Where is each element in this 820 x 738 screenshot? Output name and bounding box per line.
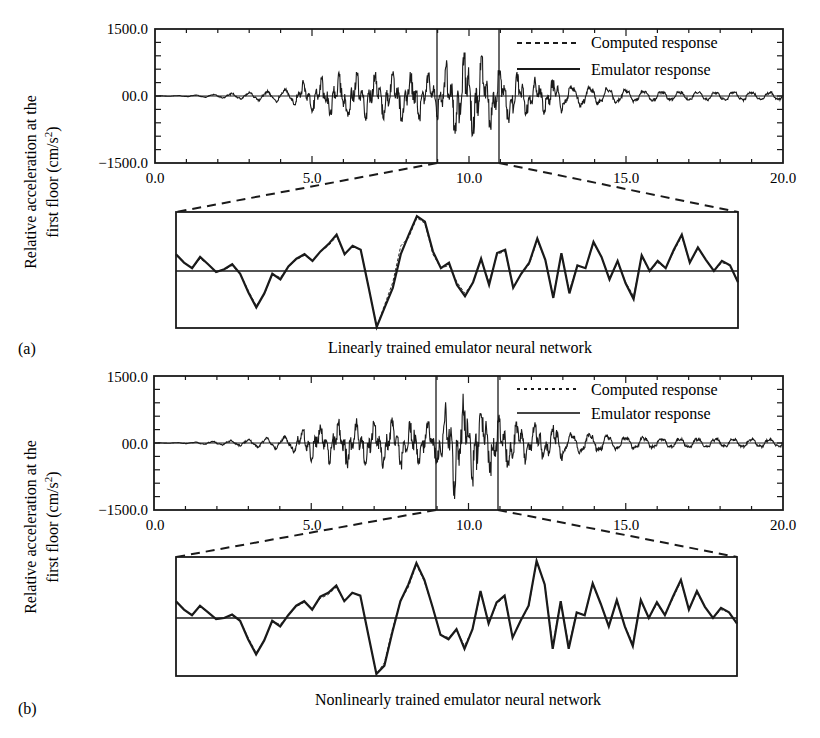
legend-emulator: Emulator response [591, 61, 711, 79]
y-tick-zero: 00.0 [122, 88, 148, 104]
y-axis-label-line1: Relative acceleration at the [22, 440, 39, 614]
caption-b: Nonlinearly trained emulator neural netw… [315, 691, 601, 709]
x-tick-10: 10.0 [456, 517, 482, 533]
legend-emulator: Emulator response [591, 405, 711, 423]
caption-a: Linearly trained emulator neural network [328, 339, 592, 357]
panel-label-b: (b) [18, 700, 37, 718]
y-tick-max: 1500.0 [107, 21, 148, 37]
y-tick-zero: 00.0 [122, 436, 148, 452]
y-tick-min: −1500.0 [98, 502, 148, 518]
y-axis-label-line2: first floor (cm/s2) [42, 126, 62, 237]
x-tick-10: 10.0 [456, 170, 482, 186]
legend-computed: Computed response [591, 381, 718, 399]
legend: Computed response Emulator response [517, 381, 718, 423]
legend: Computed response Emulator response [517, 34, 718, 79]
y-axis-label-line2: first floor (cm/s2) [42, 471, 62, 582]
panel-b: Relative acceleration at the first floor… [18, 369, 796, 718]
inset-plot-a [176, 212, 738, 328]
x-tick-0: 0.0 [146, 517, 165, 533]
x-tick-20: 20.0 [770, 517, 796, 533]
y-tick-max: 1500.0 [107, 369, 148, 385]
panel-label-a: (a) [18, 340, 36, 358]
figure: Relative acceleration at the first floor… [0, 0, 820, 738]
x-tick-5: 5.0 [303, 517, 322, 533]
x-tick-20: 20.0 [770, 170, 796, 186]
panel-a: Relative acceleration at the first floor… [18, 21, 796, 358]
legend-computed: Computed response [591, 34, 718, 52]
main-plot-a: 1500.0 00.0 −1500.0 0.0 5.0 10.0 15.0 20… [98, 21, 796, 186]
main-plot-b: 1500.0 00.0 −1500.0 0.0 5.0 10.0 15.0 20… [98, 369, 796, 533]
x-tick-0: 0.0 [146, 170, 165, 186]
x-tick-15: 15.0 [613, 170, 639, 186]
x-tick-15: 15.0 [613, 517, 639, 533]
y-axis-label-line1: Relative acceleration at the [22, 95, 39, 269]
inset-plot-b [176, 557, 737, 676]
y-tick-min: −1500.0 [98, 155, 148, 171]
x-tick-5: 5.0 [303, 170, 322, 186]
